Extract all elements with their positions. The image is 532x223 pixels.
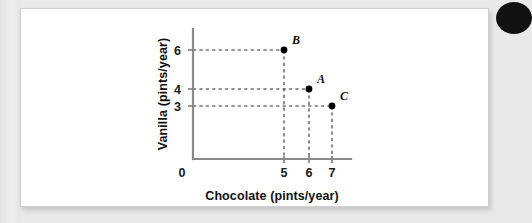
data-point-a[interactable] (306, 86, 313, 93)
y-tick-label-4: 4 (174, 83, 181, 97)
figure-card: 6 4 3 5 6 7 0 B A C Chocolate (pints/yea… (20, 8, 489, 207)
x-tick-label-7: 7 (329, 166, 336, 180)
corner-circle-mark (496, 2, 532, 34)
scatter-chart: 6 4 3 5 6 7 0 B A C Chocolate (pints/yea… (21, 9, 490, 208)
x-tick-label-5: 5 (281, 166, 288, 180)
page-left-margin-band (0, 0, 20, 223)
data-point-c[interactable] (329, 103, 336, 110)
x-tick-label-6: 6 (306, 166, 313, 180)
data-point-b[interactable] (281, 47, 288, 54)
y-tick-label-3: 3 (174, 100, 181, 114)
data-point-label-c: C (340, 89, 349, 103)
y-axis-title: Vanilla (pints/year) (156, 38, 170, 150)
data-point-label-b: B (291, 33, 300, 47)
origin-label: 0 (179, 166, 186, 180)
x-axis-title: Chocolate (pints/year) (205, 189, 338, 203)
chart-svg: 6 4 3 5 6 7 0 B A C Chocolate (pints/yea… (21, 9, 490, 208)
y-tick-label-6: 6 (174, 44, 181, 58)
data-point-label-a: A (316, 72, 325, 86)
